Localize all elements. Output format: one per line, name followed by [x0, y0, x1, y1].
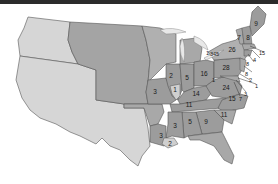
label-missouri: 3: [153, 88, 157, 95]
label-new-york: 26: [228, 46, 236, 53]
label-pennsylvania: 28: [222, 64, 230, 71]
label-west-pointer: 1: [212, 77, 215, 83]
label-maine: 9: [254, 20, 258, 27]
label-north-carolina: 15: [228, 95, 236, 102]
label-illinois: 2: [169, 72, 173, 79]
region-florida: [188, 132, 234, 164]
us-map: 9 7 8 15 4 8 26 8 28 2 1 3 7 24 1 16 5 2…: [0, 0, 278, 184]
label-alabama: 5: [188, 118, 192, 125]
state-maine: [250, 6, 266, 36]
label-maryland: 1: [255, 83, 258, 89]
label-mississippi: 3: [173, 122, 177, 129]
label-ohio: 16: [200, 70, 208, 77]
label-lake-erie-cluster: 345: [210, 51, 219, 57]
state-massachusetts: [242, 44, 256, 50]
label-louisiana-south: 2: [168, 140, 172, 147]
label-connecticut: 8: [246, 61, 249, 67]
label-vermont: 8: [246, 34, 250, 41]
label-dc-area: 3: [244, 91, 247, 97]
label-new-jersey: 8: [245, 71, 248, 77]
label-kentucky: 14: [192, 90, 200, 97]
label-massachusetts: 15: [259, 50, 265, 56]
label-indiana: 5: [185, 74, 189, 81]
label-illinois-south: 1: [173, 86, 177, 93]
label-new-hampshire: 7: [237, 34, 241, 41]
label-georgia: 9: [204, 118, 208, 125]
label-louisiana: 3: [159, 132, 163, 139]
label-rhode-island: 4: [253, 57, 256, 63]
state-connecticut: [244, 50, 252, 56]
label-virginia: 24: [222, 84, 230, 91]
label-tennessee: 11: [186, 101, 193, 108]
label-lake-erie-1: 1: [206, 50, 209, 56]
label-south-carolina: 11: [221, 111, 228, 118]
label-virginia-coast: 7: [239, 96, 242, 102]
label-delaware: 2: [249, 77, 252, 83]
